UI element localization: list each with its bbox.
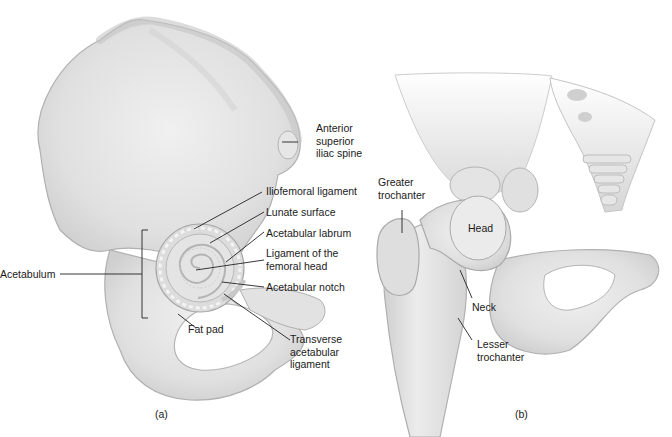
label-ligament-of-femoral-head: Ligament of the femoral head [266,247,338,272]
label-line: superior [316,135,362,148]
label-acetabulum: Acetabulum [0,268,55,281]
label-acetabular-labrum: Acetabular labrum [266,227,351,240]
hip-joint-figure: Anterior superior iliac spine Iliofemora… [0,0,672,437]
label-iliofemoral-ligament: Iliofemoral ligament [266,185,357,198]
label-line: Greater [378,176,425,189]
label-anterior-superior-iliac-spine: Anterior superior iliac spine [316,122,362,160]
label-lesser-trochanter: Lesser trochanter [477,338,524,363]
caption-panel-b: (b) [515,408,528,420]
label-line: Anterior [316,122,362,135]
label-transverse-acetabular-ligament: Transverse acetabular ligament [290,333,342,371]
label-fat-pad: Fat pad [188,323,224,336]
label-line: femoral head [266,260,338,273]
label-head: Head [468,222,493,235]
label-line: Lesser [477,338,524,351]
anatomy-illustration [0,0,672,437]
label-neck: Neck [472,301,496,314]
label-lunate-surface: Lunate surface [266,206,335,219]
label-line: trochanter [378,189,425,202]
caption-panel-a: (a) [155,408,168,420]
label-greater-trochanter: Greater trochanter [378,176,425,201]
label-line: iliac spine [316,147,362,160]
label-line: acetabular [290,346,342,359]
label-line: Ligament of the [266,247,338,260]
label-line: Transverse [290,333,342,346]
label-line: trochanter [477,351,524,364]
hip-joint-anterior [377,73,659,437]
label-line: ligament [290,358,342,371]
label-acetabular-notch: Acetabular notch [266,281,345,294]
